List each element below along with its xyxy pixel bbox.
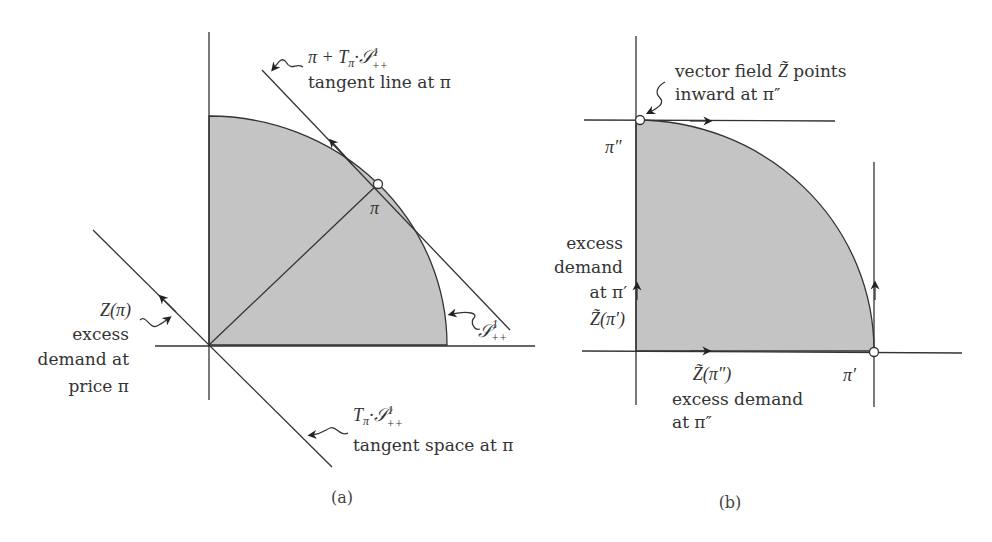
point-pi xyxy=(374,180,383,189)
point-pi-double-prime xyxy=(636,116,645,125)
tangent-line-math-label: π + Tπ·𝒮1++ xyxy=(308,45,388,73)
simplex-region-b xyxy=(636,120,874,351)
excess-demand-text-1: excess xyxy=(72,324,129,344)
left-label-3: at π′ xyxy=(590,282,628,302)
vector-field-label-1: vector field Z̃ points xyxy=(674,61,846,81)
excess-demand-text-2: demand at xyxy=(38,349,130,369)
left-label-math: Z̃(π′) xyxy=(590,309,625,330)
left-label-2: demand xyxy=(554,257,623,277)
sphere-label: 𝒮1++ xyxy=(478,317,507,345)
pi-label: π xyxy=(370,198,380,218)
top-horizontal-line xyxy=(584,120,835,121)
tangent-space-text-label: tangent space at π xyxy=(353,435,513,455)
vector-field-label-2: inward at π″ xyxy=(675,84,780,104)
tangent-line-text-label: tangent line at π xyxy=(308,72,451,92)
excess-demand-arrow xyxy=(162,298,176,312)
caption-b: (b) xyxy=(719,493,742,512)
bottom-label-1: excess demand xyxy=(672,389,803,409)
caption-a: (a) xyxy=(331,488,353,507)
squiggle-pointer-sphere xyxy=(452,312,480,329)
squiggle-pointer-excess-demand xyxy=(140,319,168,327)
economics-diagram: π π + Tπ·𝒮1++ tangent line at π 𝒮1++ Z(π… xyxy=(0,0,992,542)
squiggle-pointer-vector-field xyxy=(650,82,665,112)
excess-demand-text-3: price π xyxy=(68,376,129,396)
excess-demand-math-label: Z(π) xyxy=(100,300,131,321)
left-label-1: excess xyxy=(566,233,623,253)
bottom-label-math: Z̃(π″) xyxy=(693,364,732,385)
bottom-label-2: at π″ xyxy=(672,412,712,432)
point-pi-prime xyxy=(870,348,879,357)
pi-double-prime-label: π″ xyxy=(605,137,622,157)
squiggle-pointer-tangent-line xyxy=(274,60,303,68)
tangent-space-math-label: Tπ·𝒮1++ xyxy=(353,403,403,431)
panel-a: π π + Tπ·𝒮1++ tangent line at π 𝒮1++ Z(π… xyxy=(38,32,535,507)
squiggle-pointer-tangent-space xyxy=(312,428,348,435)
panel-b: vector field Z̃ points inward at π″ π″ π… xyxy=(554,36,962,512)
pi-prime-label: π′ xyxy=(843,365,857,385)
